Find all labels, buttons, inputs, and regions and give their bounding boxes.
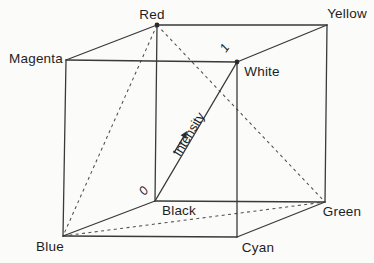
vertex-label-white: White <box>244 65 280 79</box>
edge-blue-cyan <box>63 236 237 237</box>
vertex-label-red: Red <box>139 8 164 22</box>
vertex-label-cyan: Cyan <box>242 241 274 255</box>
vertex-dot-red <box>155 23 160 28</box>
rgb-color-cube-diagram: Red Yellow Magenta White Black Green Blu… <box>0 0 374 263</box>
vertex-label-yellow: Yellow <box>327 7 367 21</box>
edge-white-yellow <box>237 25 327 62</box>
edge-blue-black <box>63 201 155 236</box>
edge-red-black <box>155 25 157 201</box>
vertex-dot-white <box>235 60 240 65</box>
edge-black-green <box>155 201 325 202</box>
diagonal-red-green <box>157 25 325 202</box>
vertex-label-blue: Blue <box>36 240 64 254</box>
diagonal-red-blue <box>63 25 157 236</box>
edge-magenta-blue <box>63 60 66 236</box>
vertex-label-black: Black <box>162 204 196 218</box>
vertex-label-green: Green <box>323 205 362 219</box>
vertex-label-magenta: Magenta <box>9 52 63 66</box>
edge-yellow-green <box>325 25 327 202</box>
edge-magenta-white <box>66 60 237 62</box>
